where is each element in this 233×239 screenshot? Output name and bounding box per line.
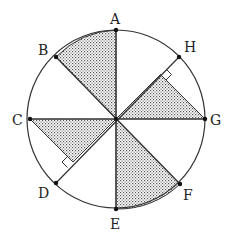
shaded-triangle-oc [30,119,116,162]
label-f: F [183,187,193,203]
shaded-triangle-og [116,75,205,120]
label-d: D [38,185,49,201]
label-a: A [109,11,121,27]
label-e: E [110,216,120,232]
point-b [54,55,58,59]
circle-diagram: A B C D E F G H [0,0,233,239]
point-c [28,117,32,121]
label-b: B [38,42,48,58]
label-c: C [12,112,23,128]
point-a [114,28,118,32]
point-f [178,182,182,186]
point-d [54,181,58,185]
label-g: G [210,112,221,128]
point-h [177,55,181,59]
point-e [114,207,118,211]
shaded-sector-aob [56,30,116,119]
point-center [114,117,118,121]
shaded-sector-eof [116,119,180,209]
point-g [203,117,207,121]
label-h: H [184,39,196,55]
